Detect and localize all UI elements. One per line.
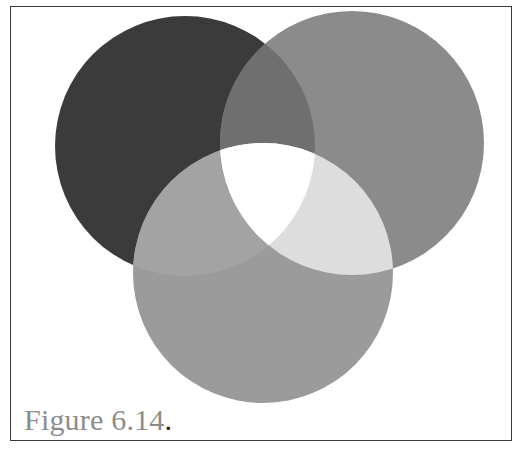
venn-diagram [0,0,520,452]
caption-text: Figure 6.14 [24,403,165,436]
figure-caption: Figure 6.14. [24,403,172,437]
caption-period: . [165,403,173,436]
